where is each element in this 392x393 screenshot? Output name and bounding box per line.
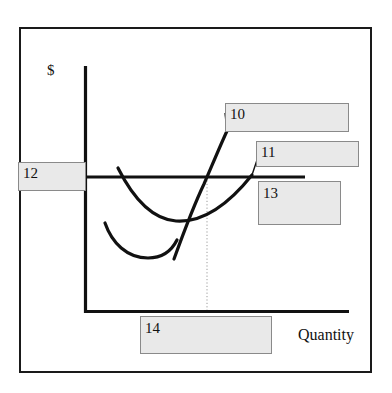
- answer-box-11-number: 11: [261, 142, 275, 162]
- average-variable-cost-curve: [105, 223, 177, 258]
- answer-box-13-number: 13: [263, 183, 278, 203]
- figure-container: $ Quantity 10 11 12 13 14: [0, 0, 392, 393]
- answer-box-14[interactable]: 14: [140, 316, 272, 354]
- answer-box-13[interactable]: 13: [258, 181, 341, 225]
- answer-box-10-number: 10: [230, 104, 245, 124]
- marginal-cost-curve: [174, 131, 227, 259]
- answer-box-10[interactable]: 10: [225, 103, 349, 132]
- answer-box-11[interactable]: 11: [256, 141, 359, 167]
- answer-box-14-number: 14: [145, 318, 160, 338]
- answer-box-12-number: 12: [23, 163, 38, 183]
- x-axis-label: Quantity: [298, 326, 354, 344]
- answer-box-12[interactable]: 12: [18, 162, 86, 191]
- y-axis-label: $: [47, 62, 55, 79]
